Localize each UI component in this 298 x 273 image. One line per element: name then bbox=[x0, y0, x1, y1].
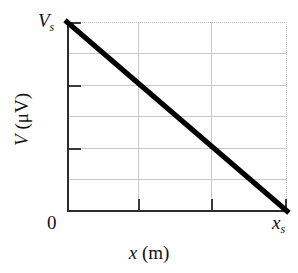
origin-tick-label: 0 bbox=[47, 213, 57, 232]
x-axis-label: x (m) bbox=[0, 243, 298, 262]
y-axis-unit: (μV) bbox=[11, 93, 32, 130]
y-max-subscript: s bbox=[50, 20, 55, 34]
y-axis-label: V (μV) bbox=[12, 55, 31, 185]
data-series-line bbox=[67, 22, 287, 211]
x-max-subscript: s bbox=[280, 222, 285, 236]
y-axis-symbol: V bbox=[11, 134, 32, 146]
chart-figure: Vs 0 xs x (m) V (μV) bbox=[0, 0, 298, 273]
y-max-symbol: V bbox=[38, 10, 50, 31]
x-axis-symbol: x bbox=[129, 242, 137, 263]
y-max-tick-label: Vs bbox=[38, 11, 54, 33]
x-axis-unit: (m) bbox=[142, 242, 169, 263]
x-max-tick-label: xs bbox=[272, 213, 285, 235]
